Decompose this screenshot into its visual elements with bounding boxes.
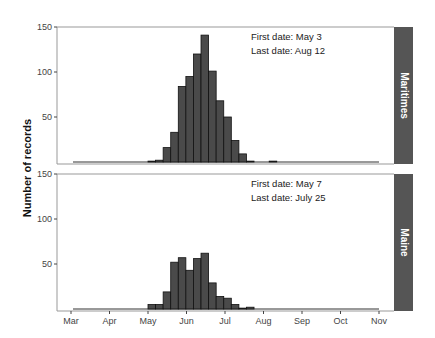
histogram-bar — [209, 71, 217, 162]
facet-strip-label: Maritimes — [399, 72, 410, 119]
x-tick-label: Mar — [63, 316, 79, 326]
histogram-bar — [171, 132, 179, 162]
histogram-bar — [231, 305, 239, 310]
histogram-bar — [216, 101, 224, 162]
x-tick-label: Apr — [102, 316, 116, 326]
last-date-annotation: Last date: July 25 — [251, 192, 325, 203]
histogram-bar — [246, 307, 254, 309]
histogram-bar — [216, 296, 224, 309]
histogram-bar — [239, 154, 247, 162]
histogram-bar — [246, 161, 254, 162]
histogram-bar — [148, 161, 156, 162]
y-tick-label: 100 — [37, 214, 52, 224]
histogram-bar — [186, 77, 194, 163]
x-tick-label: Aug — [255, 316, 271, 326]
histogram-bar — [239, 308, 247, 309]
x-tick-label: Nov — [371, 316, 388, 326]
panel-maritimes: 50100150First date: May 3Last date: Aug … — [37, 22, 413, 164]
x-tick-label: Jun — [179, 316, 194, 326]
histogram-bar — [163, 148, 171, 162]
histogram-bar — [148, 305, 156, 310]
histogram-bar — [209, 283, 217, 309]
faceted-histogram: 50100150First date: May 3Last date: Aug … — [0, 0, 435, 338]
x-tick-label: May — [139, 316, 157, 326]
histogram-bar — [171, 262, 179, 309]
y-tick-label: 100 — [37, 67, 52, 77]
histogram-bar — [231, 140, 239, 162]
panel-maine: 50100150First date: May 7Last date: July… — [37, 169, 413, 311]
histogram-bar — [178, 86, 186, 162]
y-tick-label: 150 — [37, 169, 52, 179]
histogram-bar — [201, 35, 209, 162]
histogram-bar — [224, 117, 232, 162]
x-tick-label: Jul — [219, 316, 231, 326]
histogram-bar — [224, 298, 232, 309]
histogram-bar — [156, 160, 164, 162]
histogram-bar — [156, 305, 164, 310]
y-tick-label: 50 — [42, 112, 52, 122]
facet-strip-label: Maine — [399, 228, 410, 257]
y-tick-label: 150 — [37, 22, 52, 32]
histogram-bar — [193, 54, 201, 162]
x-tick-label: Oct — [333, 316, 348, 326]
histogram-bar — [269, 161, 277, 162]
histogram-bar — [186, 270, 194, 309]
first-date-annotation: First date: May 7 — [251, 178, 322, 189]
last-date-annotation: Last date: Aug 12 — [251, 45, 325, 56]
y-tick-label: 50 — [42, 259, 52, 269]
histogram-bar — [201, 253, 209, 309]
x-tick-label: Sep — [294, 316, 310, 326]
histogram-bar — [193, 259, 201, 309]
histogram-bar — [163, 292, 171, 309]
histogram-bar — [178, 258, 186, 309]
first-date-annotation: First date: May 3 — [251, 31, 322, 42]
